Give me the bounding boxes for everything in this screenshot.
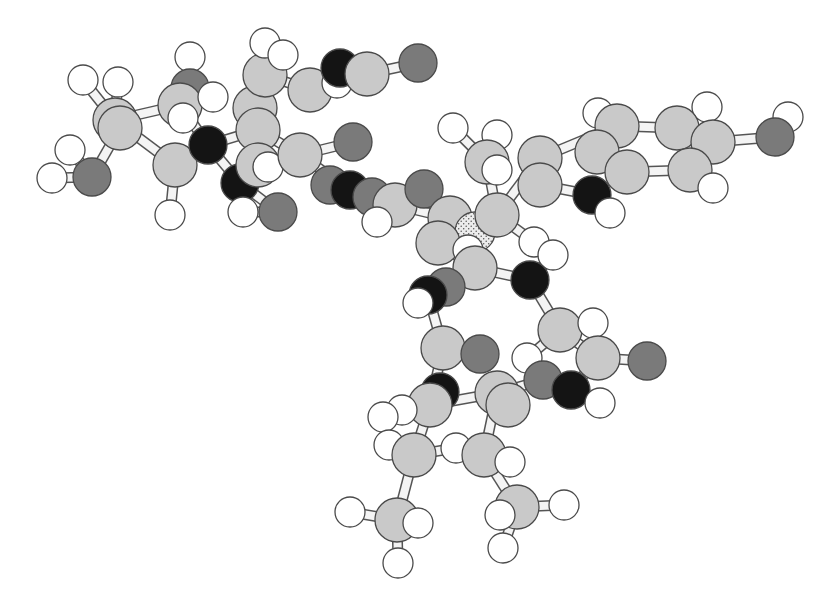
atom-oxygen-icon <box>259 193 297 231</box>
atom-hydrogen-icon <box>228 197 258 227</box>
atom-hydrogen-icon <box>482 155 512 185</box>
atom-hydrogen-icon <box>362 207 392 237</box>
atom-hydrogen-icon <box>595 198 625 228</box>
atom-oxygen-icon <box>73 158 111 196</box>
atom-hydrogen-icon <box>198 82 228 112</box>
atom-hydrogen-icon <box>55 135 85 165</box>
atom-carbon-icon <box>416 221 460 265</box>
atom-carbon-icon <box>421 326 465 370</box>
molecule-diagram: ball-and-stick molecular model <box>0 0 834 606</box>
atom-carbon-icon <box>278 133 322 177</box>
atom-carbon-icon <box>518 163 562 207</box>
atom-hydrogen-icon <box>368 402 398 432</box>
atom-nitrogen-icon <box>189 126 227 164</box>
atom-hydrogen-icon <box>485 500 515 530</box>
atom-hydrogen-icon <box>438 113 468 143</box>
atom-hydrogen-icon <box>168 103 198 133</box>
atom-hydrogen-icon <box>578 308 608 338</box>
atom-hydrogen-icon <box>175 42 205 72</box>
molecule-svg <box>0 0 834 606</box>
atom-oxygen-icon <box>756 118 794 156</box>
atom-hydrogen-icon <box>68 65 98 95</box>
atom-hydrogen-icon <box>335 497 365 527</box>
atom-hydrogen-icon <box>495 447 525 477</box>
atom-carbon-icon <box>486 383 530 427</box>
atom-oxygen-icon <box>461 335 499 373</box>
atom-carbon-icon <box>475 193 519 237</box>
atom-hydrogen-icon <box>403 288 433 318</box>
atom-hydrogen-icon <box>549 490 579 520</box>
atom-carbon-icon <box>576 336 620 380</box>
atom-hydrogen-icon <box>488 533 518 563</box>
atom-oxygen-icon <box>399 44 437 82</box>
atom-hydrogen-icon <box>155 200 185 230</box>
atom-oxygen-icon <box>334 123 372 161</box>
atom-hydrogen-icon <box>585 388 615 418</box>
atom-hydrogen-icon <box>268 40 298 70</box>
atom-carbon-icon <box>345 52 389 96</box>
atom-carbon-icon <box>392 433 436 477</box>
atom-carbon-icon <box>98 106 142 150</box>
atom-hydrogen-icon <box>403 508 433 538</box>
atom-hydrogen-icon <box>37 163 67 193</box>
atom-nitrogen-icon <box>552 371 590 409</box>
atom-carbon-icon <box>538 308 582 352</box>
atom-hydrogen-icon <box>698 173 728 203</box>
atom-carbon-icon <box>605 150 649 194</box>
atom-oxygen-icon <box>628 342 666 380</box>
atom-nitrogen-icon <box>511 261 549 299</box>
atom-hydrogen-icon <box>103 67 133 97</box>
atom-hydrogen-icon <box>383 548 413 578</box>
